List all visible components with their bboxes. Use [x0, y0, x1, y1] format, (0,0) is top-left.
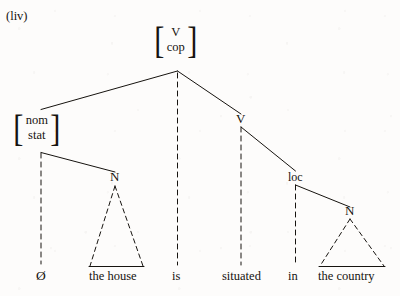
node-root-line-2: cop	[167, 41, 185, 54]
node-locative-loc: loc	[288, 171, 303, 183]
edge-locative-to-noun-right	[296, 185, 351, 207]
terminal-preposition: in	[288, 270, 298, 283]
terminal-participle: situated	[222, 270, 261, 283]
edge-root-to-verb	[178, 71, 242, 114]
terminal-null-subject: Ø	[36, 269, 46, 283]
node-subject-line-2: stat	[28, 129, 45, 142]
bracket-right-root: ]	[187, 22, 197, 58]
triangle-right-side-a	[320, 219, 350, 266]
bracket-right-subject: ]	[50, 110, 60, 146]
edge-subject-to-noun-left	[41, 153, 115, 173]
example-number: (liv)	[6, 10, 28, 23]
terminal-copula: is	[172, 270, 180, 283]
edge-root-to-subject	[41, 71, 178, 110]
bracket-left-subject: [	[13, 110, 23, 146]
node-subject-nom-stat: [ nom stat ]	[12, 110, 62, 146]
triangle-left-side-a	[90, 186, 115, 266]
terminal-locative-phrase: the country	[318, 270, 375, 283]
node-root-v-cop: [ V cop ]	[153, 22, 198, 58]
node-root-line-1: V	[171, 26, 180, 39]
node-noun-right-n: N	[345, 204, 354, 217]
terminal-subject-phrase: the house	[89, 270, 137, 283]
edge-verb-to-locative	[241, 127, 296, 171]
figure-canvas: (liv) [ V cop ] [ nom stat ] V loc N N Ø…	[0, 0, 400, 296]
triangle-right-side-b	[350, 219, 384, 266]
node-subject-line-1: nom	[26, 114, 48, 127]
bracket-left-root: [	[154, 22, 164, 58]
triangle-left-side-b	[115, 186, 143, 266]
node-noun-left-n: N	[110, 170, 119, 183]
node-verb-v: V	[236, 112, 245, 125]
